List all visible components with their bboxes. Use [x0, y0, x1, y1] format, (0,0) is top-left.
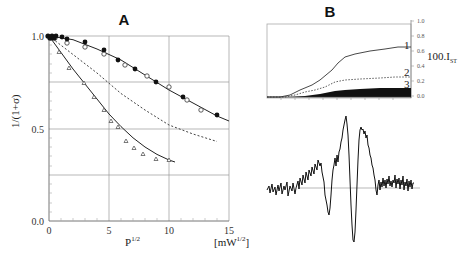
b-tick-0-8: 0.8 [417, 33, 425, 39]
figure: A [0, 0, 462, 255]
panel-a-title: A [119, 11, 130, 28]
x-unit-close: ] [246, 236, 250, 248]
curve-3-band [290, 88, 411, 97]
panel-b-y-label: 100.IST [427, 50, 457, 64]
x-tick-0: 0 [47, 225, 52, 236]
panel-b-signal-trace [267, 116, 420, 242]
x-tick-10: 10 [164, 225, 174, 236]
panel-a-x-tick-labels: 0 5 10 15 [47, 225, 235, 236]
panel-a-x-unit: [mW1/2] [214, 235, 249, 248]
panel-a-x-label: P1/2 [125, 235, 141, 248]
b-tick-0-2: 0.2 [417, 78, 425, 84]
x-tick-5: 5 [107, 225, 112, 236]
y-tick-0-5: 0.5 [32, 124, 45, 135]
b-tick-0-4: 0.4 [417, 63, 425, 69]
y-tick-0-0: 0.0 [32, 216, 45, 227]
x-unit-base: [mW [214, 236, 237, 248]
fit-curve-lower [49, 36, 175, 162]
panel-a-axes [49, 36, 229, 221]
filled-circle-markers [45, 33, 219, 117]
panel-a-grid [49, 36, 229, 221]
b-ylabel-sub: ST [450, 58, 457, 64]
curve-label-3: 3 [404, 78, 410, 90]
panel-a-y-label: 1/(1+σ) [9, 94, 22, 128]
open-circle-markers [49, 36, 203, 112]
panel-a-minor-ticks [49, 45, 217, 221]
b-tick-0-0: 0.0 [417, 93, 425, 99]
triangle-markers [57, 50, 171, 162]
b-ylabel-base: 100.I [427, 50, 450, 62]
panel-b-title: B [325, 3, 336, 20]
panel-a-y-tick-labels: 1.0 0.5 0.0 [32, 31, 45, 227]
b-tick-1-0: 1.0 [417, 18, 425, 24]
fit-curve-dotted [49, 36, 217, 142]
panel-b-top-plot: 1 2 3 1.0 0.8 0.6 0.4 0.2 0.0 100.IST [267, 18, 457, 100]
panel-a-plot-area [45, 33, 229, 221]
x-label-sup: 1/2 [131, 235, 140, 243]
panel-b-frame [267, 24, 411, 98]
signal-line [267, 116, 414, 242]
curve-label-2: 2 [404, 66, 410, 78]
x-tick-15: 15 [224, 225, 234, 236]
y-tick-1-0: 1.0 [32, 31, 45, 42]
b-tick-0-6: 0.6 [417, 48, 425, 54]
curve-label-1: 1 [404, 39, 410, 51]
